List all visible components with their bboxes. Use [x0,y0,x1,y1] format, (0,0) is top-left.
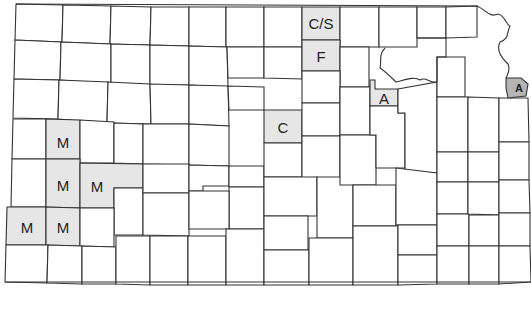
label-m4: M [21,219,34,236]
county [226,7,264,47]
county [114,123,143,164]
county [437,214,469,246]
county [226,229,264,285]
kansas-county-map: C/S F C A A M M M M M [0,0,531,309]
label-a-central: A [379,90,389,107]
county [302,103,340,136]
county [143,124,189,165]
county [264,177,317,216]
county [499,180,530,213]
county [107,82,151,124]
county [499,142,529,180]
county [15,4,63,42]
county [114,188,143,235]
county [11,159,46,207]
county [437,182,468,214]
county [317,177,353,238]
county [499,246,531,284]
label-c: C [278,119,289,136]
county [340,7,379,47]
county [80,208,114,247]
county [82,246,116,284]
county [189,165,229,191]
county [417,7,446,38]
county [111,44,150,85]
county [5,245,48,283]
county [229,166,264,187]
county [437,57,465,97]
county [189,124,229,166]
county [264,47,302,79]
county [189,191,229,229]
label-m3: M [91,178,104,195]
county [47,245,82,284]
county [340,135,376,185]
county [398,225,437,255]
county [302,71,340,103]
county [62,5,111,44]
label-a-east: A [515,82,523,94]
label-m1: M [57,134,70,151]
label-m5: M [57,219,70,236]
county [499,213,530,246]
county [189,85,229,126]
county [469,215,499,246]
county [150,236,188,285]
county [189,46,228,87]
county [143,164,189,193]
county [468,182,499,215]
county [150,84,189,124]
county [396,168,437,225]
county [264,250,309,285]
county [116,236,150,285]
county-grid [5,4,531,285]
county [228,86,264,110]
county [58,80,108,123]
county [353,185,396,226]
county [14,40,61,80]
county [468,152,499,182]
county [13,79,59,119]
county [264,216,308,250]
county [110,6,151,45]
county [143,193,189,236]
county [150,7,189,46]
label-m2: M [57,177,70,194]
county [12,119,46,159]
county [188,236,226,285]
county [150,45,189,85]
county [353,226,398,285]
label-f: F [316,48,325,65]
county [437,246,469,284]
county [80,120,114,163]
county [189,7,226,47]
county [499,98,529,142]
county [446,6,477,38]
county [469,246,499,284]
county [302,136,340,183]
county [264,143,302,177]
label-cs: C/S [308,15,333,32]
county [229,187,264,229]
county [60,42,111,84]
county [340,47,369,87]
county [340,87,370,135]
county [227,47,264,78]
county [437,97,468,152]
county [468,97,499,152]
county [264,7,302,47]
county [309,238,353,285]
county [379,7,417,47]
kansas-river [380,48,437,82]
county [437,152,468,182]
missouri-river [477,6,510,78]
county [398,255,437,285]
